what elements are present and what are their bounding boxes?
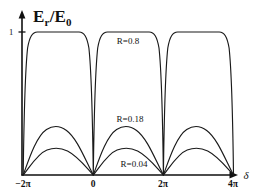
x-tick-label-0: 0 <box>91 179 96 189</box>
y-axis-arrowhead <box>19 10 26 19</box>
curve-r-0-8 <box>23 32 233 175</box>
y-axis-title-sub-0: 0 <box>66 16 72 28</box>
y-axis-title-slash: /E <box>49 7 66 26</box>
x-tick-label-2pi: 2π <box>158 179 169 189</box>
series-label-r-0-04: R=0.04 <box>121 159 148 169</box>
y-axis-title-main: E <box>33 7 45 26</box>
y-tick-label-1: 1 <box>9 27 13 37</box>
figure-root: Er/E0 1 −2π 0 2π 4π δ R=0.8 R=0.18 R=0.0… <box>0 0 261 192</box>
series-label-r-0-8: R=0.8 <box>117 36 140 46</box>
x-axis-title-delta: δ <box>243 169 249 181</box>
y-axis-title: Er/E0 <box>33 7 72 28</box>
series-label-r-0-18: R=0.18 <box>117 114 144 124</box>
curve-group-r08 <box>23 32 233 175</box>
airy-reflectance-plot: Er/E0 1 −2π 0 2π 4π δ R=0.8 R=0.18 R=0.0… <box>0 0 261 192</box>
x-tick-label-neg2pi: −2π <box>15 179 31 189</box>
x-tick-label-4pi: 4π <box>228 179 239 189</box>
